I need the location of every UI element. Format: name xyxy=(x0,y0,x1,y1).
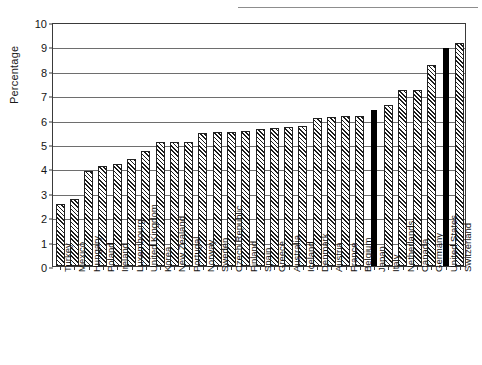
x-tick-mark xyxy=(346,266,347,270)
x-tick-label: Korea xyxy=(163,247,173,272)
x-tick-label: Czech Republic xyxy=(234,205,244,272)
x-tick-label: Hungary xyxy=(92,236,102,272)
x-tick-label: Austria xyxy=(334,242,344,272)
x-tick-label: Mexico xyxy=(77,242,87,272)
x-tick-label: Luxembourg xyxy=(135,219,145,272)
y-tick-mark xyxy=(49,268,53,269)
x-tick-label: Japan xyxy=(377,246,387,272)
x-tick-mark xyxy=(403,266,404,270)
x-tick-label: Netherlands xyxy=(406,221,416,272)
x-tick-label: Germany xyxy=(434,233,444,272)
x-tick-label: Australia xyxy=(292,235,302,272)
x-tick-label: Denmark xyxy=(320,233,330,272)
x-tick-label: France xyxy=(349,242,359,272)
x-tick-mark xyxy=(460,266,461,270)
x-tick-mark xyxy=(360,266,361,270)
plot-area: 012345678910 xyxy=(52,23,466,267)
x-tick-label: Ireland xyxy=(120,243,130,272)
x-tick-mark xyxy=(203,266,204,270)
chart-figure: Percentage 012345678910 TurkeyMexicoHung… xyxy=(0,0,482,365)
x-tick-label: Spain xyxy=(263,248,273,272)
x-tick-label: Greece xyxy=(277,241,287,272)
x-tick-mark xyxy=(303,266,304,270)
x-tick-mark xyxy=(103,266,104,270)
x-tick-label: United Kingdom xyxy=(149,204,159,272)
x-tick-label: Italy xyxy=(391,255,401,272)
x-tick-label: Finland xyxy=(249,241,259,272)
x-tick-label: Portugal xyxy=(192,237,202,272)
y-axis-label: Percentage xyxy=(8,88,20,104)
x-tick-mark xyxy=(289,266,290,270)
x-tick-mark xyxy=(189,266,190,270)
x-tick-label: United States xyxy=(449,215,459,272)
x-tick-label: New Zealand xyxy=(177,216,187,272)
bar-italy xyxy=(384,105,393,266)
x-tick-label: Norway xyxy=(206,240,216,272)
x-tick-mark xyxy=(446,266,447,270)
x-tick-mark xyxy=(146,266,147,270)
x-tick-mark xyxy=(260,266,261,270)
x-tick-mark xyxy=(60,266,61,270)
x-tick-mark xyxy=(317,266,318,270)
x-tick-label: Iceland xyxy=(306,241,316,272)
x-tick-mark xyxy=(246,266,247,270)
bar-series xyxy=(53,24,465,266)
x-tick-label: Switzerland xyxy=(463,223,473,272)
x-tick-mark xyxy=(417,266,418,270)
x-tick-label: Canada xyxy=(420,239,430,272)
x-tick-label: Turkey xyxy=(63,243,73,272)
page-horizontal-rule xyxy=(238,7,478,8)
x-tick-mark xyxy=(160,266,161,270)
x-tick-label: Sweden xyxy=(220,238,230,272)
x-tick-label: Poland xyxy=(106,242,116,272)
x-tick-mark xyxy=(132,266,133,270)
x-tick-label: Belgium xyxy=(363,238,373,272)
x-tick-mark xyxy=(89,266,90,270)
x-axis-labels: TurkeyMexicoHungaryPolandIrelandLuxembou… xyxy=(52,272,466,364)
